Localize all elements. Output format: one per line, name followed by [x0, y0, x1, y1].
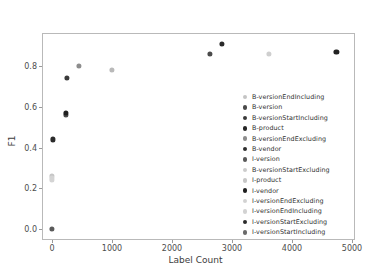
scatter-plot-figure: 0100020003000400050000.00.20.40.60.8 Lab…	[0, 0, 373, 271]
legend-marker-icon	[238, 157, 252, 162]
legend-label: B-versionEndExcluding	[252, 134, 326, 144]
x-tick	[172, 240, 173, 243]
legend-dot	[243, 116, 248, 121]
data-point	[334, 49, 339, 54]
x-axis-label: Label Count	[0, 255, 373, 265]
legend-dot	[243, 157, 248, 162]
legend-marker-icon	[238, 136, 252, 141]
legend-label: I-versionEndExcluding	[252, 196, 324, 206]
legend-label: I-versionStartIncluding	[252, 227, 325, 237]
y-tick	[39, 66, 42, 67]
x-tick-label: 0	[49, 244, 54, 253]
data-point	[109, 67, 114, 72]
data-point	[219, 41, 224, 46]
x-tick	[52, 240, 53, 243]
legend-marker-icon	[238, 105, 252, 110]
legend-label: B-product	[252, 123, 284, 133]
legend-label: B-version	[252, 102, 282, 112]
x-tick	[352, 240, 353, 243]
legend-marker-icon	[238, 199, 252, 204]
legend-dot	[243, 105, 248, 110]
legend-marker-icon	[238, 116, 252, 121]
x-tick	[232, 240, 233, 243]
legend-label: B-versionEndIncluding	[252, 92, 324, 102]
y-tick-label: 0.4	[16, 143, 37, 152]
legend-label: B-versionStartExcluding	[252, 165, 330, 175]
legend-marker-icon	[238, 178, 252, 183]
legend-dot	[243, 126, 248, 131]
legend-dot	[243, 230, 248, 235]
legend-dot	[243, 209, 248, 214]
data-point	[50, 137, 55, 142]
legend-marker-icon	[238, 188, 252, 193]
legend-dot	[243, 178, 248, 183]
legend-marker-icon	[238, 168, 252, 173]
legend-label: B-vendor	[252, 144, 281, 154]
legend-label: I-version	[252, 154, 280, 164]
legend-marker-icon	[238, 147, 252, 152]
x-tick-label: 2000	[162, 244, 182, 253]
legend-label: I-versionStartExcluding	[252, 217, 327, 227]
y-tick-label: 0.8	[16, 62, 37, 71]
x-tick-label: 3000	[222, 244, 242, 253]
legend-item[interactable]: B-versionEndIncluding	[238, 92, 354, 102]
x-axis-label-text: Label Count	[169, 255, 223, 265]
x-tick-label: 1000	[102, 244, 122, 253]
legend-label: I-product	[252, 175, 281, 185]
legend-item[interactable]: I-versionEndIncluding	[238, 206, 354, 216]
legend: B-versionEndIncludingB-versionB-versionS…	[238, 92, 354, 237]
legend-dot	[243, 95, 248, 100]
legend-item[interactable]: B-vendor	[238, 144, 354, 154]
legend-dot	[243, 136, 248, 141]
legend-marker-icon	[238, 95, 252, 100]
data-point	[64, 76, 69, 81]
legend-marker-icon	[238, 220, 252, 225]
legend-item[interactable]: B-versionStartExcluding	[238, 165, 354, 175]
legend-marker-icon	[238, 126, 252, 131]
legend-item[interactable]: I-product	[238, 175, 354, 185]
y-tick-label: 0.2	[16, 184, 37, 193]
legend-label: I-vendor	[252, 186, 279, 196]
y-tick	[39, 148, 42, 149]
x-tick-label: 5000	[342, 244, 362, 253]
y-tick	[39, 229, 42, 230]
legend-marker-icon	[238, 230, 252, 235]
legend-dot	[243, 147, 248, 152]
legend-item[interactable]: I-versionEndExcluding	[238, 196, 354, 206]
legend-item[interactable]: B-versionEndExcluding	[238, 134, 354, 144]
y-tick-label: 0.0	[16, 225, 37, 234]
y-tick	[39, 188, 42, 189]
legend-marker-icon	[238, 209, 252, 214]
y-axis-label: F1	[7, 121, 17, 161]
legend-item[interactable]: I-vendor	[238, 186, 354, 196]
legend-item[interactable]: I-versionStartIncluding	[238, 227, 354, 237]
legend-dot	[243, 220, 248, 225]
legend-label: I-versionEndIncluding	[252, 206, 322, 216]
x-tick	[112, 240, 113, 243]
data-point	[49, 226, 54, 231]
legend-label: B-versionStartIncluding	[252, 113, 328, 123]
legend-item[interactable]: B-version	[238, 102, 354, 112]
data-point	[267, 51, 272, 56]
legend-dot	[243, 199, 248, 204]
legend-dot	[243, 168, 248, 173]
legend-item[interactable]: I-version	[238, 154, 354, 164]
y-tick	[39, 107, 42, 108]
x-tick-label: 4000	[282, 244, 302, 253]
data-point	[50, 178, 55, 183]
legend-dot	[243, 188, 248, 193]
y-tick-label: 0.6	[16, 102, 37, 111]
data-point	[207, 51, 212, 56]
legend-item[interactable]: B-versionStartIncluding	[238, 113, 354, 123]
data-point	[76, 63, 81, 68]
legend-item[interactable]: B-product	[238, 123, 354, 133]
x-tick	[292, 240, 293, 243]
legend-item[interactable]: I-versionStartExcluding	[238, 217, 354, 227]
